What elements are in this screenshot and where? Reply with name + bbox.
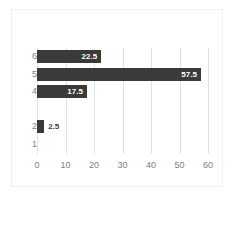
value-tick-10: 10 [54,157,78,173]
value-tick-40: 40 [139,157,163,173]
value-tick-20: 20 [82,157,106,173]
category-tick-1: 1 [11,136,37,154]
bar-row [37,101,208,119]
bar-row: 17.5 [37,83,208,101]
value-tick-0: 0 [25,157,49,173]
bar-row [37,136,208,154]
data-label-6: 22.5 [37,50,97,63]
category-tick-blank [11,101,37,119]
category-tick-6: 6 [11,48,37,66]
value-tick-50: 50 [168,157,192,173]
plot-area: 22.557.517.52.5 [37,48,208,154]
bar-row: 22.5 [37,48,208,66]
category-axis: 65421 [11,48,37,154]
bar-row: 2.5 [37,118,208,136]
value-tick-30: 30 [111,157,135,173]
category-tick-5: 5 [11,66,37,84]
data-label-2: 2.5 [48,120,59,133]
bar-row: 57.5 [37,66,208,84]
category-tick-4: 4 [11,83,37,101]
bar-2 [37,120,44,133]
data-label-5: 57.5 [37,68,197,81]
category-tick-2: 2 [11,118,37,136]
data-label-4: 17.5 [37,85,83,98]
value-axis: 0102030405060 [0,157,234,173]
value-tick-60: 60 [196,157,220,173]
gridline-60 [208,48,209,154]
